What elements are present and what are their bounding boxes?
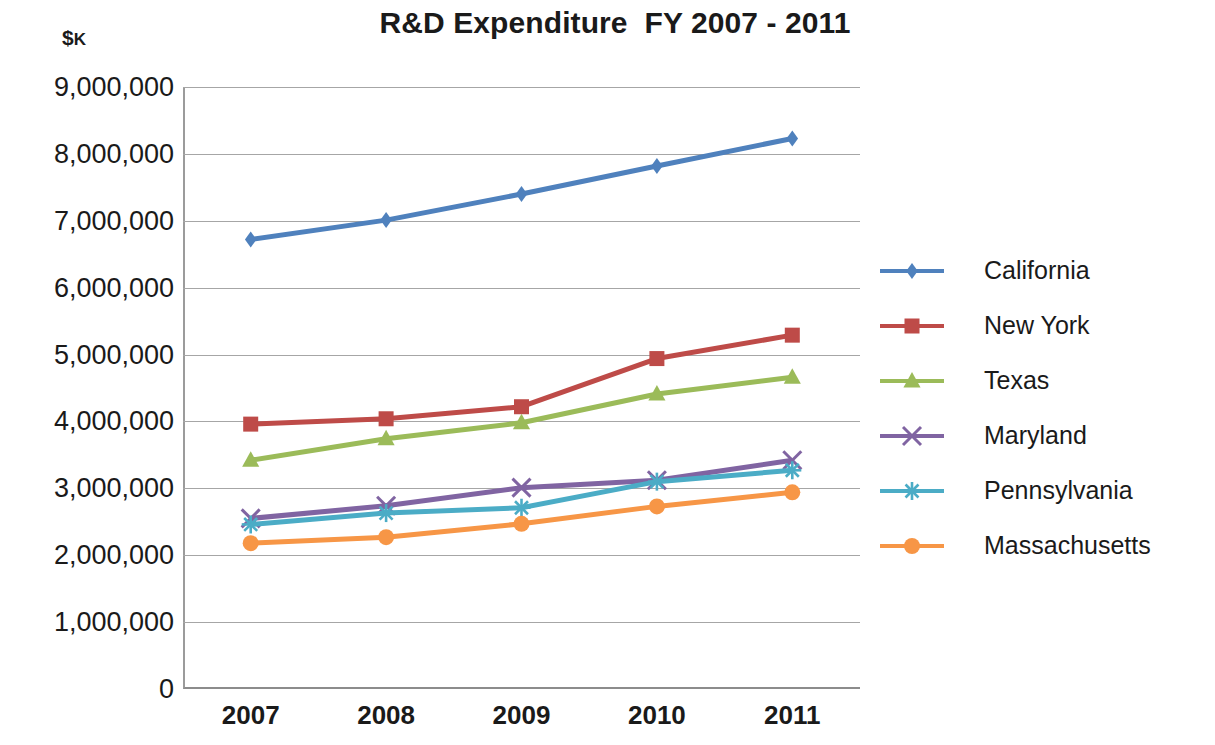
- y-axis-tick-label: 5,000,000: [4, 339, 174, 370]
- data-point-marker-diamond: [380, 212, 392, 228]
- y-axis-tick-labels: 9,000,0008,000,0007,000,0006,000,0005,00…: [0, 0, 174, 745]
- data-point-marker-asterisk: [513, 499, 531, 517]
- legend-marker-square-icon: [880, 313, 944, 339]
- data-point-marker-diamond: [787, 131, 799, 147]
- data-point-marker-asterisk: [242, 515, 260, 533]
- y-axis-tick-label: 7,000,000: [4, 205, 174, 236]
- data-point-marker-circle: [514, 516, 530, 532]
- legend-item-maryland[interactable]: Maryland: [880, 408, 1210, 463]
- y-axis-tick-label: 4,000,000: [4, 406, 174, 437]
- legend-swatch: [880, 258, 944, 284]
- data-point-marker-asterisk: [903, 482, 921, 500]
- y-axis-tick-label: 2,000,000: [4, 540, 174, 571]
- legend-marker-x-icon: [880, 423, 944, 449]
- data-point-marker-square: [785, 328, 800, 343]
- data-point-marker-diamond: [651, 158, 663, 174]
- data-point-marker-square: [243, 417, 258, 432]
- y-axis-tick-label: 9,000,000: [4, 72, 174, 103]
- data-point-marker-square: [905, 318, 920, 333]
- data-point-marker-asterisk: [648, 473, 666, 491]
- data-point-marker-circle: [378, 529, 394, 545]
- data-point-marker-square: [379, 411, 394, 426]
- data-point-marker-circle: [784, 484, 800, 500]
- data-point-marker-asterisk: [377, 504, 395, 522]
- x-axis-tick-label: 2007: [191, 700, 311, 731]
- legend-item-massachusetts[interactable]: Massachusetts: [880, 518, 1210, 573]
- data-point-marker-triangle: [903, 372, 920, 387]
- y-axis-tick-label: 1,000,000: [4, 607, 174, 638]
- legend-item-pennsylvania[interactable]: Pennsylvania: [880, 463, 1210, 518]
- legend-swatch: [880, 533, 944, 559]
- data-point-marker-asterisk: [783, 461, 801, 479]
- legend-marker-circle-icon: [880, 533, 944, 559]
- data-point-marker-circle: [649, 498, 665, 514]
- legend-label: Pennsylvania: [984, 476, 1133, 505]
- legend-swatch: [880, 368, 944, 394]
- series-texas: [242, 368, 801, 466]
- legend-item-california[interactable]: California: [880, 243, 1210, 298]
- legend-label: California: [984, 256, 1090, 285]
- y-axis-tick-label: 8,000,000: [4, 138, 174, 169]
- chart-title: R&D Expenditure FY 2007 - 2011: [255, 6, 975, 40]
- data-point-marker-square: [649, 351, 664, 366]
- legend-swatch: [880, 423, 944, 449]
- x-axis-tick-label: 2010: [597, 700, 717, 731]
- legend-swatch: [880, 478, 944, 504]
- data-series-layer: [183, 87, 860, 689]
- legend-marker-diamond-icon: [880, 258, 944, 284]
- data-point-marker-circle: [243, 535, 259, 551]
- data-point-marker-square: [514, 399, 529, 414]
- legend-marker-asterisk-icon: [880, 478, 944, 504]
- plot-area: [183, 87, 860, 689]
- legend-item-new-york[interactable]: New York: [880, 298, 1210, 353]
- data-point-marker-diamond: [516, 186, 528, 202]
- x-axis-tick-labels: 20072008200920102011: [183, 700, 860, 740]
- y-axis-tick-label: 3,000,000: [4, 473, 174, 504]
- data-point-marker-diamond: [245, 232, 257, 248]
- x-axis-tick-label: 2008: [326, 700, 446, 731]
- x-axis-tick-label: 2009: [462, 700, 582, 731]
- legend-swatch: [880, 313, 944, 339]
- chart-container: R&D Expenditure FY 2007 - 2011 $K 9,000,…: [0, 0, 1215, 745]
- data-point-marker-x: [903, 427, 921, 445]
- y-axis-tick-label: 6,000,000: [4, 272, 174, 303]
- legend-label: Massachusetts: [984, 531, 1151, 560]
- y-axis-tick-label: 0: [4, 674, 174, 705]
- chart-legend: CaliforniaNew YorkTexasMarylandPennsylva…: [880, 243, 1210, 573]
- legend-marker-triangle-icon: [880, 368, 944, 394]
- legend-label: Texas: [984, 366, 1049, 395]
- series-california: [245, 131, 798, 248]
- legend-label: Maryland: [984, 421, 1087, 450]
- legend-item-texas[interactable]: Texas: [880, 353, 1210, 408]
- data-point-marker-circle: [904, 538, 920, 554]
- x-axis-tick-label: 2011: [732, 700, 852, 731]
- data-point-marker-diamond: [906, 263, 918, 279]
- legend-label: New York: [984, 311, 1090, 340]
